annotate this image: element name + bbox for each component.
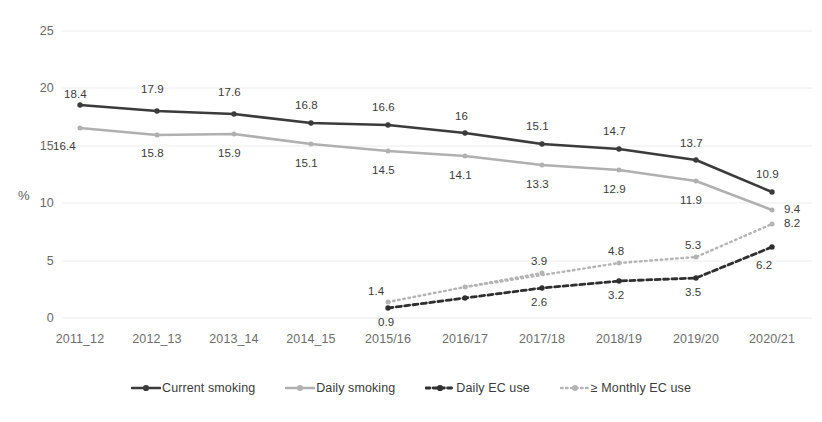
data-label-monthly-ec-use: 8.2 [784,217,800,229]
legend-item-monthly-ec-use[interactable]: ≥ Monthly EC use [560,381,691,395]
data-point [693,157,698,162]
data-label-daily-smoking: 15.8 [141,147,164,159]
data-point [385,305,390,310]
data-point [77,102,82,107]
data-label-daily-smoking: 9.4 [784,203,800,215]
legend-item-daily-ec-use[interactable]: Daily EC use [425,381,529,395]
data-label-daily-smoking: 14.1 [449,169,472,181]
data-point [770,208,775,213]
series-line-daily-smoking [80,128,772,210]
data-point [155,133,160,138]
data-point [385,122,390,127]
x-tick-2016-17: 2016/17 [422,332,508,346]
series-line-daily-ec-use [388,247,772,308]
data-label-current-smoking: 17.9 [141,83,164,95]
x-tick-2015-16: 2015/16 [345,332,431,346]
data-point [154,108,159,113]
data-point [617,168,622,173]
data-label-monthly-ec-use: 5.3 [685,239,701,251]
data-point [769,244,774,249]
data-point [462,130,467,135]
data-label-daily-smoking: 13.3 [526,178,549,190]
x-tick-2019-20: 2019/20 [653,332,739,346]
data-label-daily-smoking: 11.9 [680,194,702,206]
data-point [770,222,775,227]
data-point [463,154,468,159]
data-point [694,179,699,184]
legend-swatch-dotted-gray-icon [560,382,590,394]
legend-label-monthly-ec-use: ≥ Monthly EC use [591,381,691,395]
data-point [769,189,774,194]
data-point [386,149,391,154]
x-tick-2011-12: 2011_12 [37,332,123,346]
data-label-monthly-ec-use: 4.8 [608,245,624,257]
legend-label-current-smoking: Current smoking [162,381,255,395]
data-point [616,278,621,283]
data-label-daily-ec-use: 0.9 [378,316,394,328]
data-point [386,300,391,305]
data-point [539,285,544,290]
legend-swatch-solid-dark-icon [131,382,161,394]
data-point [694,255,699,260]
x-tick-2018-19: 2018/19 [576,332,662,346]
data-label-daily-smoking: 15.1 [295,157,318,169]
data-label-daily-smoking: 16.4 [53,140,76,152]
data-label-current-smoking: 13.7 [680,137,703,149]
x-tick-2020-21: 2020/21 [729,332,815,346]
legend-item-current-smoking[interactable]: Current smoking [131,381,255,395]
legend-label-daily-ec-use: Daily EC use [456,381,529,395]
data-point [617,261,622,266]
data-label-monthly-ec-use: 1.4 [368,285,384,297]
data-point [540,271,545,276]
data-label-current-smoking: 14.7 [603,125,626,137]
data-label-daily-ec-use: 3.5 [685,286,701,298]
x-tick-2017-18: 2017/18 [499,332,585,346]
data-label-daily-smoking: 15.9 [218,147,241,159]
data-label-monthly-ec-use: 3.9 [531,255,547,267]
data-label-current-smoking: 16 [455,110,468,122]
data-point [232,132,237,137]
data-point [231,111,236,116]
data-label-current-smoking: 16.6 [372,101,395,113]
gridlines [62,31,812,318]
data-point [78,126,83,131]
data-point [462,295,467,300]
data-point [693,275,698,280]
plot-area [0,0,822,422]
data-point [463,285,468,290]
chart-legend: Current smoking Daily smoking Daily EC u… [0,381,822,395]
data-label-daily-ec-use: 3.2 [608,289,624,301]
x-tick-2012-13: 2012_13 [114,332,200,346]
series-markers-current-smoking [77,102,774,194]
series-line-monthly-ec-use [388,224,772,302]
data-point [540,163,545,168]
data-point [308,120,313,125]
data-label-current-smoking: 18.4 [64,88,87,100]
data-point [616,146,621,151]
data-label-current-smoking: 15.1 [526,120,549,132]
legend-swatch-dashed-dark-icon [425,382,455,394]
data-point [309,142,314,147]
legend-item-daily-smoking[interactable]: Daily smoking [285,381,395,395]
data-label-daily-smoking: 14.5 [372,164,395,176]
x-tick-2014-15: 2014_15 [268,332,354,346]
data-label-current-smoking: 16.8 [295,99,318,111]
series-markers-daily-smoking [78,126,775,213]
data-label-daily-smoking: 12.9 [603,183,626,195]
data-label-daily-ec-use: 2.6 [531,296,547,308]
line-chart: % 25 20 15 10 5 0 [0,0,822,422]
data-label-current-smoking: 17.6 [218,86,241,98]
x-tick-2013-14: 2013_14 [191,332,277,346]
legend-swatch-solid-gray-icon [285,382,315,394]
data-label-current-smoking: 10.9 [756,168,779,180]
series-line-current-smoking [80,105,772,192]
legend-label-daily-smoking: Daily smoking [316,381,395,395]
data-point [539,141,544,146]
data-label-daily-ec-use: 6.2 [756,259,772,271]
